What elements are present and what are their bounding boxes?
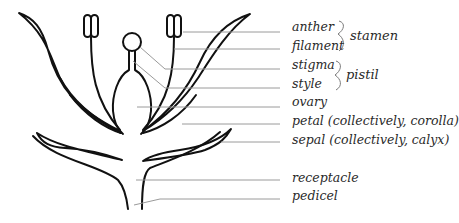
left-inner-petal <box>60 78 121 133</box>
label-petal: petal (collectively, corolla) <box>292 115 459 128</box>
right-anther <box>167 15 174 37</box>
leader-pedicel <box>134 199 280 205</box>
label-sepal: sepal (collectively, calyx) <box>292 134 449 147</box>
left-petal <box>19 13 120 131</box>
stigma-shape <box>123 33 141 51</box>
leader-lines <box>133 32 280 205</box>
right-filament <box>143 37 174 130</box>
pistil-shape <box>113 51 129 134</box>
receptacle-left <box>33 136 128 209</box>
left-anther <box>84 15 91 37</box>
group-label-stamen: stamen <box>350 29 398 42</box>
label-anther: anther <box>292 21 334 34</box>
label-filament: filament <box>292 40 344 53</box>
label-ovary: ovary <box>292 96 327 109</box>
label-receptacle: receptacle <box>292 172 359 185</box>
group-label-pistil: pistil <box>346 68 379 81</box>
label-stigma: stigma <box>292 59 335 72</box>
left-sepal <box>37 133 122 160</box>
label-style: style <box>292 78 322 91</box>
braces <box>335 21 343 90</box>
pistil-brace <box>335 61 340 90</box>
label-pedicel: pedicel <box>292 190 338 203</box>
